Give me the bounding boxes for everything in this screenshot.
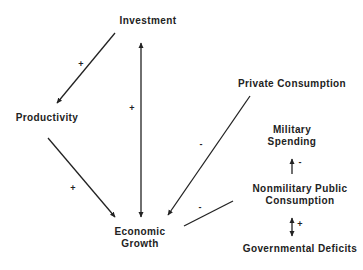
node-private-consumption: Private Consumption — [238, 78, 346, 90]
nonmilitary-label-line2: Consumption — [253, 195, 348, 207]
sign-investment-growth: + — [129, 104, 134, 113]
sign-productivity-growth: + — [70, 184, 75, 193]
investment-label: Investment — [120, 15, 177, 26]
sign-nonmilitary-deficits: + — [297, 220, 302, 229]
private-consumption-label: Private Consumption — [238, 78, 346, 89]
node-governmental-deficits: Governmental Deficits — [243, 243, 358, 255]
economic-growth-label-line1: Economic — [115, 226, 166, 238]
sign-investment-productivity: + — [78, 60, 83, 69]
edge-investment-productivity — [57, 33, 115, 103]
economic-growth-label-line2: Growth — [115, 238, 166, 250]
edge-productivity-economic-growth — [48, 138, 115, 217]
sign-nonmilitary-growth: - — [199, 203, 202, 212]
node-investment: Investment — [120, 15, 177, 27]
edge-private-consumption-economic-growth — [168, 96, 250, 215]
node-military-spending: Military Spending — [268, 124, 317, 148]
sign-private-consumption-growth: - — [200, 140, 203, 149]
nonmilitary-label-line1: Nonmilitary Public — [253, 183, 348, 195]
sign-nonmilitary-military: - — [299, 158, 302, 167]
military-spending-label-line1: Military — [268, 124, 317, 136]
productivity-label: Productivity — [16, 112, 79, 123]
node-productivity: Productivity — [16, 112, 79, 124]
edge-nonmilitary-economic-growth — [184, 201, 233, 226]
node-nonmilitary-public-consumption: Nonmilitary Public Consumption — [253, 183, 348, 207]
governmental-deficits-label: Governmental Deficits — [243, 243, 358, 254]
node-economic-growth: Economic Growth — [115, 226, 166, 250]
military-spending-label-line2: Spending — [268, 136, 317, 148]
